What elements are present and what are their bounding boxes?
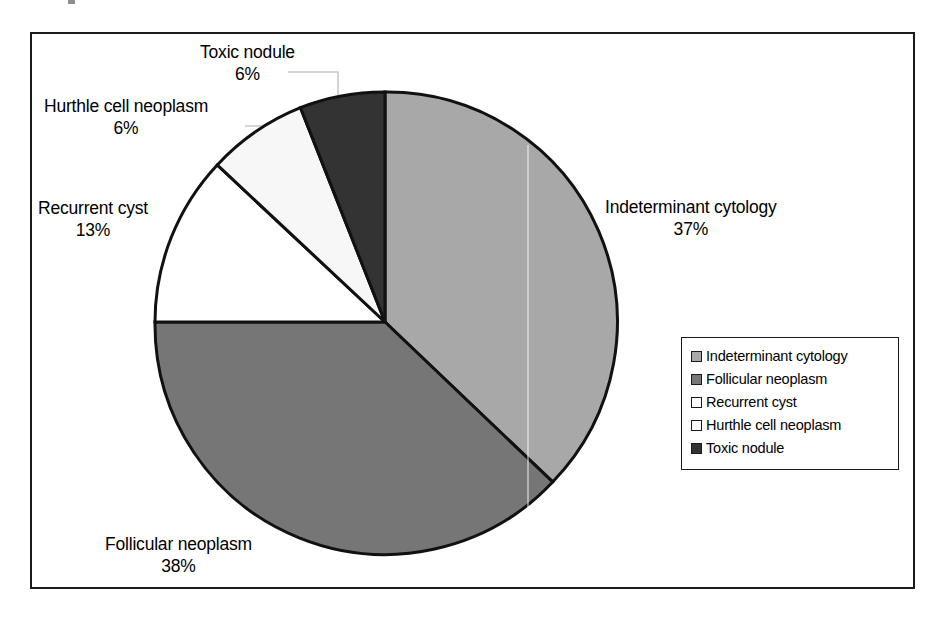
pie-label-hurthle-cell-neoplasm-name: Hurthle cell neoplasm — [44, 96, 208, 116]
legend-swatch-icon-indeterminant-cytology — [691, 351, 702, 362]
pie-label-recurrent-cyst: Recurrent cyst 13% — [38, 197, 148, 242]
legend-item-indeterminant-cytology[interactable]: Indeterminant cytology — [691, 345, 898, 368]
pie-label-recurrent-cyst-name: Recurrent cyst — [38, 198, 148, 218]
legend-item-toxic-nodule[interactable]: Toxic nodule — [691, 437, 898, 460]
legend-label-toxic-nodule: Toxic nodule — [706, 437, 784, 460]
pie-label-hurthle-cell-neoplasm: Hurthle cell neoplasm 6% — [44, 95, 208, 140]
chart-legend: Indeterminant cytology Follicular neopla… — [681, 337, 899, 470]
pie-label-follicular-neoplasm-name: Follicular neoplasm — [105, 534, 252, 554]
pie-label-toxic-nodule-percent: 6% — [200, 63, 295, 85]
legend-label-indeterminant-cytology: Indeterminant cytology — [706, 345, 848, 368]
legend-item-follicular-neoplasm[interactable]: Follicular neoplasm — [691, 368, 898, 391]
pie-label-indeterminant-cytology: Indeterminant cytology 37% — [605, 196, 777, 241]
pie-label-recurrent-cyst-percent: 13% — [38, 219, 148, 241]
legend-swatch-icon-hurthle-cell-neoplasm — [691, 420, 702, 431]
pie-label-follicular-neoplasm: Follicular neoplasm 38% — [105, 533, 252, 578]
legend-item-recurrent-cyst[interactable]: Recurrent cyst — [691, 391, 898, 414]
legend-item-hurthle-cell-neoplasm[interactable]: Hurthle cell neoplasm — [691, 414, 898, 437]
legend-label-recurrent-cyst: Recurrent cyst — [706, 391, 797, 414]
pie-label-hurthle-cell-neoplasm-percent: 6% — [44, 117, 208, 139]
pie-chart-plot-area: Indeterminant cytology 37% Follicular ne… — [0, 0, 942, 627]
pie-label-indeterminant-cytology-name: Indeterminant cytology — [605, 197, 777, 217]
pie-label-toxic-nodule: Toxic nodule 6% — [200, 41, 295, 86]
pie-label-toxic-nodule-name: Toxic nodule — [200, 42, 295, 62]
pie-label-follicular-neoplasm-percent: 38% — [105, 555, 252, 577]
legend-swatch-icon-follicular-neoplasm — [691, 374, 702, 385]
leader-line-toxic-nodule — [288, 72, 338, 95]
legend-swatch-icon-recurrent-cyst — [691, 397, 702, 408]
pie-label-indeterminant-cytology-percent: 37% — [605, 218, 777, 240]
legend-label-follicular-neoplasm: Follicular neoplasm — [706, 368, 827, 391]
legend-swatch-icon-toxic-nodule — [691, 443, 702, 454]
legend-label-hurthle-cell-neoplasm: Hurthle cell neoplasm — [706, 414, 841, 437]
